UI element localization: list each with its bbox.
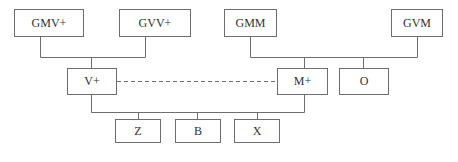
node-o: O [339,68,389,95]
node-z: Z [115,119,161,143]
connector-gmm-gvm [251,36,418,58]
connector-gmv-gvv [41,36,146,58]
node-v-plus: V+ [67,68,117,95]
node-gmm: GMM [224,9,277,37]
node-b: B [175,119,221,143]
node-m-plus: M+ [277,68,328,95]
node-gmv-plus: GMV+ [14,9,84,37]
children-bus [92,94,305,113]
node-x: X [234,119,280,143]
node-gvv-plus: GVV+ [119,9,191,37]
node-gvm: GVM [391,9,443,37]
